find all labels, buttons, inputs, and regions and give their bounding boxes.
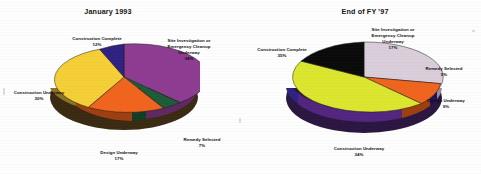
label-text: Design Underway: [427, 98, 465, 103]
label-percent: 30%: [2, 96, 76, 102]
label-percent: 17%: [353, 45, 433, 51]
pie-chart-end-of-fy-97: End of FY '97: [241, 0, 481, 174]
chart-title-left: January 1993: [0, 7, 228, 16]
pie-chart-january-1993: January 1993: [0, 0, 240, 174]
label-design-underway-right: Design Underway 9%: [413, 98, 479, 110]
label-design-underway-left: Design Underway 17%: [82, 150, 156, 162]
label-text: Construction Complete: [72, 36, 122, 41]
label-text-line3: Underway: [178, 50, 199, 55]
label-site-investigation-left: Site Investigation or Emergency Cleanup …: [150, 38, 228, 62]
label-text: Construction Complete: [257, 47, 307, 52]
label-remedy-selected-right: Remedy Selected 5%: [409, 66, 479, 78]
scan-speck: [3, 88, 5, 95]
label-construction-complete-right: Construction Complete 35%: [245, 47, 319, 59]
label-site-investigation-right: Site Investigation or Emergency Cleanup …: [353, 27, 433, 51]
label-text: Remedy Selected: [425, 66, 462, 71]
label-percent: 17%: [82, 156, 156, 162]
chart-title-right: End of FY '97: [245, 7, 481, 16]
label-percent: 34%: [150, 56, 228, 62]
label-text-line3: Underway: [382, 39, 403, 44]
scan-speck: [472, 30, 475, 32]
label-percent: 12%: [60, 42, 134, 48]
label-text-line1: Site Investigation or: [167, 38, 210, 43]
label-construction-underway-left: Construction Underway 30%: [2, 90, 76, 102]
scan-speck: [239, 118, 241, 123]
label-construction-underway-right: Construction Underway 34%: [319, 146, 399, 158]
label-text: Construction Underway: [14, 90, 65, 95]
label-percent: 7%: [168, 143, 236, 149]
screenshot-page: January 1993: [0, 0, 481, 174]
label-remedy-selected-left: Remedy Selected 7%: [168, 137, 236, 149]
label-percent: 5%: [409, 72, 479, 78]
label-text: Remedy Selected: [183, 137, 220, 142]
label-construction-complete-left: Construction Complete 12%: [60, 36, 134, 48]
label-text-line2: Emergency Cleanup: [371, 33, 414, 38]
label-text-line2: Emergency Cleanup: [167, 44, 210, 49]
label-text: Design Underway: [100, 150, 138, 155]
label-text-line1: Site Investigation or: [371, 27, 414, 32]
label-percent: 9%: [413, 104, 479, 110]
label-percent: 34%: [319, 152, 399, 158]
label-percent: 35%: [245, 53, 319, 59]
label-text: Construction Underway: [334, 146, 385, 151]
